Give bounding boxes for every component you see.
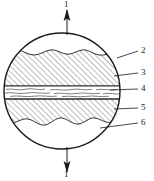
callout-label-5: 5 (141, 103, 146, 112)
top-load-arrow (64, 9, 71, 35)
callout-label-6: 6 (141, 118, 146, 127)
load-label-bottom: 1 (64, 170, 69, 179)
figure-canvas: 1 1 2 3 4 5 6 (0, 0, 154, 181)
cross-section-diagram (0, 0, 154, 181)
callout-label-3: 3 (141, 68, 146, 77)
load-label-top: 1 (64, 0, 69, 9)
leader-line-2 (117, 51, 138, 58)
upper-hatched-zone (0, 50, 130, 86)
middle-wavy-band (0, 86, 135, 99)
callout-label-4: 4 (141, 84, 146, 93)
callout-label-2: 2 (141, 46, 146, 55)
leader-line-6 (100, 123, 138, 128)
lower-hatched-zone (0, 99, 130, 125)
